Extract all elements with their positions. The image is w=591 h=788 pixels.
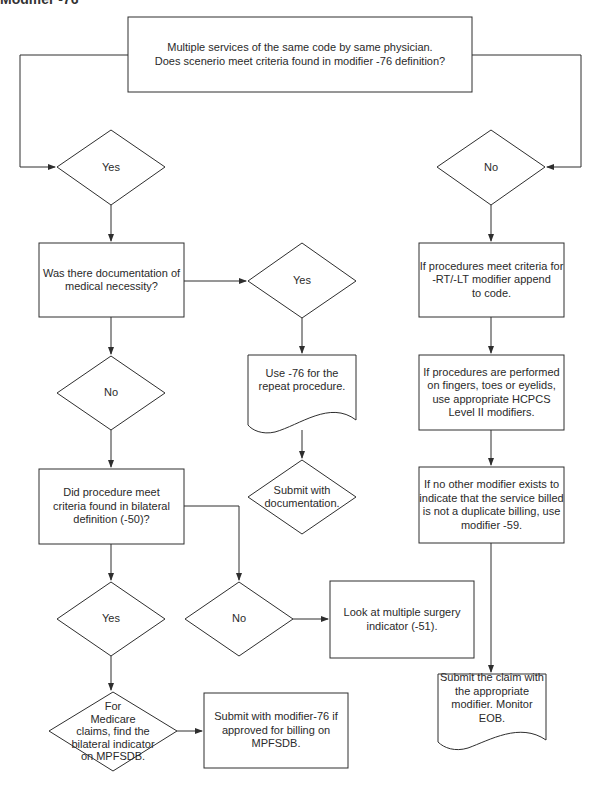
hcpcs-text: If procedures are performed on fingers, …: [423, 366, 559, 420]
yes1-node: Yes: [57, 130, 165, 205]
submit-claim-text: Submit the claim with the appropriate mo…: [438, 671, 546, 725]
med-necessity-text: Was there documentation of medical neces…: [43, 267, 180, 294]
medicare-text: For Medicare claims, find the bilateral …: [71, 700, 154, 763]
multi-surgery-node: Look at multiple surgery indicator (-51)…: [330, 581, 474, 658]
mod59-text: If no other modifier exists to indicate …: [419, 478, 563, 532]
bilateral-to-no3: [184, 506, 239, 580]
use76-text: Use -76 for the repeat procedure.: [259, 367, 346, 394]
medicare-node: For Medicare claims, find the bilateral …: [49, 692, 177, 771]
submit-doc-text: Submit with documentation.: [264, 484, 339, 511]
no1-text: No: [484, 161, 498, 175]
med-necessity-node: Was there documentation of medical neces…: [39, 243, 184, 317]
no2-text: No: [104, 386, 118, 400]
bilateral-text: Did procedure meet criteria found in bil…: [53, 486, 170, 527]
bilateral-node: Did procedure meet criteria found in bil…: [39, 469, 184, 544]
submit76-text: Submit with modifier-76 if approved for …: [214, 710, 338, 751]
yes2-node: Yes: [248, 243, 356, 318]
rtlt-text: If procedures meet criteria for -RT/-LT …: [420, 260, 564, 301]
start-text: Multiple services of the same code by sa…: [155, 41, 445, 68]
yes3-node: Yes: [57, 582, 165, 656]
submit-doc-node: Submit with documentation.: [248, 460, 356, 534]
start-node: Multiple services of the same code by sa…: [128, 17, 472, 92]
yes3-text: Yes: [102, 612, 120, 626]
yes1-text: Yes: [102, 161, 120, 175]
yes2-text: Yes: [293, 274, 311, 288]
submit-claim-node: Submit the claim with the appropriate mo…: [438, 674, 546, 722]
no1-node: No: [437, 130, 545, 205]
rtlt-node: If procedures meet criteria for -RT/-LT …: [419, 243, 564, 317]
no2-node: No: [57, 356, 165, 430]
hcpcs-node: If procedures are performed on fingers, …: [419, 355, 564, 430]
no3-node: No: [185, 582, 293, 656]
submit76-node: Submit with modifier-76 if approved for …: [204, 693, 348, 768]
no3-text: No: [232, 612, 246, 626]
mod59-node: If no other modifier exists to indicate …: [419, 467, 564, 543]
use76-node: Use -76 for the repeat procedure.: [248, 355, 356, 405]
multi-surgery-text: Look at multiple surgery indicator (-51)…: [344, 606, 461, 633]
